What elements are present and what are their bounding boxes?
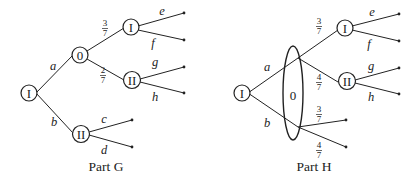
edge-h bbox=[355, 83, 399, 94]
root-node-label: I bbox=[27, 86, 31, 101]
prob-top-lower: 4 7 bbox=[316, 72, 322, 92]
label-b: b bbox=[264, 116, 270, 130]
svg-text:3: 3 bbox=[103, 18, 108, 28]
label-a: a bbox=[50, 59, 56, 73]
edge-chance-bottom-lower bbox=[298, 127, 346, 147]
leaf-h bbox=[183, 92, 186, 95]
chance-node-label: 0 bbox=[77, 48, 84, 63]
player-one-node-label: I bbox=[343, 21, 347, 36]
leaf-e bbox=[398, 13, 401, 16]
player-one-node-label: I bbox=[129, 20, 133, 35]
player-two-node-lower-label: II bbox=[77, 127, 86, 142]
leaf-g bbox=[398, 67, 401, 70]
svg-text:7: 7 bbox=[317, 114, 322, 124]
leaf-f bbox=[398, 40, 401, 43]
label-a: a bbox=[264, 60, 270, 74]
game-trees-figure: I 0 I II II a b e f g h c d 3 7 2 7 Part… bbox=[0, 0, 419, 186]
edge-e bbox=[352, 14, 399, 26]
edge-c bbox=[89, 120, 132, 132]
svg-text:7: 7 bbox=[317, 82, 322, 92]
label-c: c bbox=[101, 112, 107, 126]
prob-bottom-upper: 3 7 bbox=[316, 104, 322, 124]
svg-text:7: 7 bbox=[103, 28, 108, 38]
leaf-g bbox=[183, 66, 186, 69]
player-two-node-upper-label: II bbox=[128, 73, 137, 88]
label-h: h bbox=[152, 90, 158, 104]
prob-upper: 3 7 bbox=[102, 18, 108, 38]
edge-chance-bottom-upper bbox=[298, 120, 346, 127]
label-e: e bbox=[369, 5, 375, 19]
part-h-tree: 0 I I II a b e f g h 3 7 4 7 3 7 4 bbox=[234, 5, 400, 174]
leaf-h bbox=[398, 93, 401, 96]
prob-bottom-lower: 4 7 bbox=[316, 140, 322, 160]
chance-node-label: 0 bbox=[290, 88, 297, 103]
edge-g bbox=[355, 68, 399, 80]
label-g: g bbox=[152, 55, 158, 69]
svg-text:4: 4 bbox=[317, 140, 322, 150]
label-b: b bbox=[51, 115, 57, 129]
svg-text:3: 3 bbox=[317, 104, 322, 114]
edge-f bbox=[352, 30, 399, 41]
svg-text:7: 7 bbox=[317, 26, 322, 36]
leaf-d bbox=[131, 146, 134, 149]
label-f: f bbox=[367, 37, 372, 51]
svg-text:4: 4 bbox=[317, 72, 322, 82]
edge-g bbox=[140, 67, 184, 79]
prob-lower: 2 7 bbox=[100, 65, 106, 85]
leaf-f bbox=[183, 39, 186, 42]
edge-h bbox=[140, 82, 184, 93]
prob-top-upper: 3 7 bbox=[316, 16, 322, 36]
label-e: e bbox=[159, 4, 165, 18]
root-node-label: I bbox=[240, 86, 244, 101]
svg-text:3: 3 bbox=[317, 16, 322, 26]
label-h: h bbox=[368, 90, 374, 104]
leaf-e bbox=[183, 12, 186, 15]
caption-part-g: Part G bbox=[89, 159, 124, 174]
part-g-tree: I 0 I II II a b e f g h c d 3 7 2 7 Part… bbox=[21, 4, 185, 174]
svg-text:2: 2 bbox=[101, 65, 106, 75]
edge-chance-lower bbox=[87, 59, 124, 80]
label-f: f bbox=[151, 36, 156, 50]
player-two-node-label: II bbox=[343, 74, 352, 89]
caption-part-h: Part H bbox=[297, 159, 332, 174]
svg-text:7: 7 bbox=[101, 75, 106, 85]
label-g: g bbox=[368, 59, 374, 73]
leaf-chance-upper bbox=[345, 119, 348, 122]
edge-d bbox=[89, 135, 132, 147]
leaf-c bbox=[131, 119, 134, 122]
label-d: d bbox=[101, 143, 108, 157]
leaf-chance-lower bbox=[345, 146, 348, 149]
edge-f bbox=[138, 30, 184, 40]
